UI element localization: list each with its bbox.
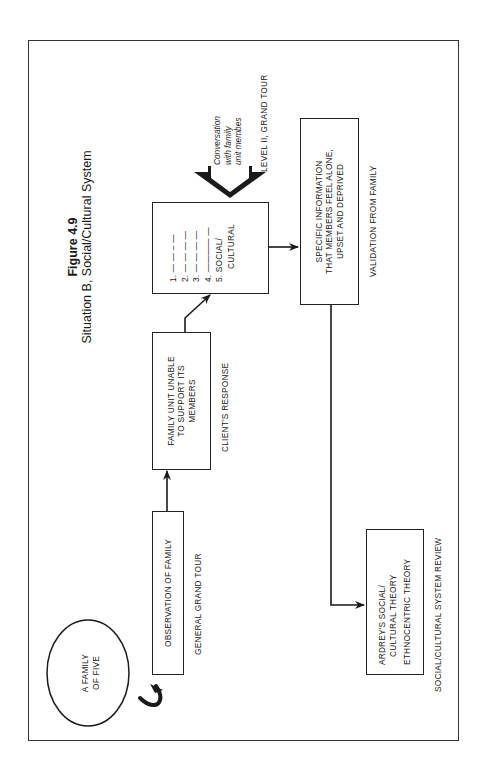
general-grand-tour-label: GENERAL GRAND TOUR	[193, 495, 203, 655]
family-oval-label: A FAMILY OF FIVE	[80, 640, 101, 706]
conversation-line-1: Conversation	[212, 105, 223, 165]
family-unit-line-2: TO SUPPORT ITS	[176, 365, 187, 437]
checklist-item-5: 5. SOCIAL/	[214, 238, 226, 282]
specific-info-box-text: SPECIFIC INFORMATION THAT MEMBERS FEEL A…	[300, 118, 359, 305]
checklist-item-3: 3. — — — —	[191, 231, 203, 282]
specific-info-line-1: SPECIFIC INFORMATION	[314, 160, 325, 262]
specific-info-line-3: UPSET AND DEPRIVED	[335, 164, 346, 259]
checklist-text: 1. — — – — 2. — — — — 3. — — — — 4. ————…	[168, 206, 248, 282]
theory-line-1: ARDREY'S SOCIAL/	[377, 585, 388, 665]
diagram-canvas: Figure 4.9 Situation B, Social/Cultural …	[0, 0, 483, 780]
conversation-line-3: unit membes	[233, 105, 244, 165]
theory-line-2: CULTURAL THEORY	[388, 575, 399, 665]
clients-response-label: CLIENT'S RESPONSE	[220, 332, 230, 452]
conversation-line-2: with family	[223, 105, 234, 165]
checklist-item-4: 4. ———— —	[203, 227, 215, 282]
observation-box-text: OBSERVATION OF FAMILY	[152, 511, 184, 675]
conversation-note: Conversation with family unit membes	[212, 105, 244, 165]
checklist-item-5-cont: CULTURAL	[226, 224, 238, 282]
checklist-item-1: 1. — — – —	[168, 234, 180, 282]
validation-from-family-label: VALIDATION FROM FAMILY	[368, 137, 378, 277]
oval-line-1: A FAMILY	[80, 640, 91, 706]
family-unit-line-1: FAMILY UNIT UNABLE	[166, 356, 177, 445]
social-cultural-system-review-label: SOCIAL/CULTURAL SYSTEM REVIEW	[433, 512, 443, 692]
observation-text: OBSERVATION OF FAMILY	[163, 539, 174, 647]
family-unit-line-3: MEMBERS	[187, 379, 198, 422]
theory-box-text: ARDREY'S SOCIAL/ CULTURAL THEORY ETHNOCE…	[366, 529, 424, 675]
specific-info-line-2: THAT MEMBERS FEEL ALONE,	[324, 149, 335, 274]
level-ii-grand-tour-label: LEVEL II, GRAND TOUR	[259, 52, 269, 172]
checklist-item-2: 2. — — — —	[180, 231, 192, 282]
theory-line-3: ETHNOCENTRIC THEORY	[402, 559, 413, 665]
family-unit-box-text: FAMILY UNIT UNABLE TO SUPPORT ITS MEMBER…	[152, 332, 211, 470]
oval-line-2: OF FIVE	[91, 640, 102, 706]
